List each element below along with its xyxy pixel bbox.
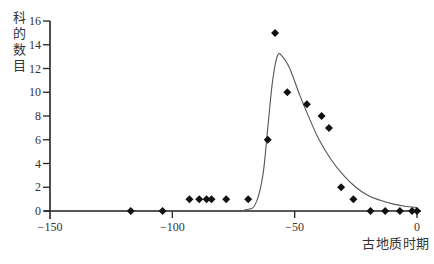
data-point-diamond (396, 207, 404, 215)
data-point-diamond (207, 195, 215, 203)
data-point-diamond (264, 136, 272, 144)
x-tick-label: 0 (414, 220, 420, 234)
data-point-diamond (244, 195, 252, 203)
data-point-diamond (413, 207, 421, 215)
x-tick-label: −50 (285, 220, 304, 234)
data-point-diamond (283, 88, 291, 96)
data-point-diamond (381, 207, 389, 215)
data-point-diamond (367, 207, 375, 215)
data-point-diamond (318, 112, 326, 120)
data-point-diamond (195, 195, 203, 203)
x-axis-label: 古地质时期 (362, 233, 430, 252)
data-point-diamond (337, 183, 345, 191)
data-point-diamond (325, 124, 333, 132)
y-tick-label: 12 (29, 62, 41, 76)
chart-canvas: 0246810121416−150−100−500 (0, 0, 434, 264)
y-tick-label: 16 (29, 14, 41, 28)
data-point-diamond (222, 195, 230, 203)
data-point-diamond (185, 195, 193, 203)
y-tick-label: 8 (35, 109, 41, 123)
fitted-curve (50, 53, 417, 211)
axes (44, 21, 421, 219)
y-tick-label: 0 (35, 204, 41, 218)
y-tick-label: 2 (35, 180, 41, 194)
y-tick-label: 6 (35, 133, 41, 147)
y-tick-label: 14 (29, 38, 41, 52)
y-tick-label: 10 (29, 85, 41, 99)
x-tick-label: −100 (160, 220, 185, 234)
y-tick-label: 4 (35, 157, 41, 171)
y-axis-label: 科的数目 (12, 10, 26, 74)
data-point-diamond (127, 207, 135, 215)
data-point-diamond (159, 207, 167, 215)
fitted-curve-path (50, 53, 417, 211)
data-point-diamond (271, 29, 279, 37)
x-tick-label: −150 (38, 220, 63, 234)
data-point-diamond (349, 195, 357, 203)
data-points (127, 29, 421, 215)
